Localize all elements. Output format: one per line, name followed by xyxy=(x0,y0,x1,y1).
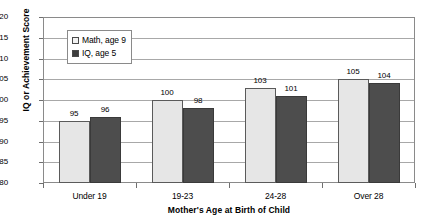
x-tick-mark xyxy=(229,183,230,188)
y-tick-label: 115 xyxy=(0,34,8,42)
y-tick-label: 90 xyxy=(0,138,8,146)
bar-value-label: 96 xyxy=(90,106,121,114)
bar xyxy=(183,108,214,183)
legend-label: Math, age 9 xyxy=(82,36,126,45)
x-tick-mark xyxy=(322,183,323,188)
y-tick-label: 95 xyxy=(0,117,8,125)
bar-value-label: 98 xyxy=(183,97,214,105)
bar xyxy=(245,88,276,183)
bar xyxy=(276,96,307,183)
bar-value-label: 105 xyxy=(338,68,369,76)
y-tick-label: 110 xyxy=(0,55,8,63)
x-axis-title: Mother's Age at Birth of Child xyxy=(43,205,415,215)
bar xyxy=(90,117,121,183)
legend-swatch-icon xyxy=(72,50,79,57)
y-tick-label: 105 xyxy=(0,75,8,83)
bar xyxy=(338,79,369,183)
bar-value-label: 100 xyxy=(152,89,183,97)
bar xyxy=(152,100,183,183)
x-tick-label: Over 28 xyxy=(322,192,415,201)
bar xyxy=(369,83,400,183)
x-tick-label: Under 19 xyxy=(43,192,136,201)
y-tick-label: 85 xyxy=(0,158,8,166)
bar-value-label: 104 xyxy=(369,72,400,80)
bar xyxy=(59,121,90,183)
y-tick-label: 100 xyxy=(0,96,8,104)
legend-item: Math, age 9 xyxy=(72,34,126,47)
y-tick-label: 120 xyxy=(0,13,8,21)
bar-value-label: 101 xyxy=(276,85,307,93)
bar-chart: IQ or Achievement Score 1201151101051009… xyxy=(0,0,430,220)
x-tick-mark xyxy=(43,183,44,188)
legend-label: IQ, age 5 xyxy=(82,49,116,58)
bar-value-label: 103 xyxy=(245,77,276,85)
bar-value-label: 95 xyxy=(59,110,90,118)
x-tick-label: 24-28 xyxy=(229,192,322,201)
legend: Math, age 9IQ, age 5 xyxy=(67,30,132,64)
legend-item: IQ, age 5 xyxy=(72,47,126,60)
x-tick-mark xyxy=(136,183,137,188)
x-tick-mark xyxy=(415,183,416,188)
y-axis-title: IQ or Achievement Score xyxy=(19,0,33,140)
x-tick-label: 19-23 xyxy=(136,192,229,201)
y-tick-label: 80 xyxy=(0,179,8,187)
legend-swatch-icon xyxy=(72,37,79,44)
